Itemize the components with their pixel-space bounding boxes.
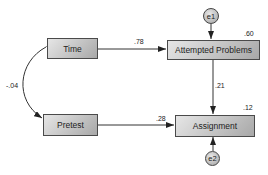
diagram-connectors <box>0 0 268 175</box>
error-e1[interactable]: e1 <box>203 8 219 24</box>
r2-attempted: .60 <box>244 30 254 37</box>
coef-time-pretest-correlation: -.04 <box>6 82 18 89</box>
error-e2[interactable]: e2 <box>205 151 220 166</box>
error-e2-label: e2 <box>208 154 216 163</box>
node-time-label: Time <box>63 44 82 54</box>
coef-time-attempted: .78 <box>134 38 144 45</box>
node-time[interactable]: Time <box>47 38 98 59</box>
node-assignment-label: Assignment <box>193 121 237 131</box>
node-attempted-label: Attempted Problems <box>175 45 252 55</box>
node-attempted-problems[interactable]: Attempted Problems <box>167 40 260 60</box>
coef-attempted-assignment: .21 <box>215 82 225 89</box>
r2-assignment: .12 <box>243 104 253 111</box>
node-pretest-label: Pretest <box>57 120 84 130</box>
node-assignment[interactable]: Assignment <box>175 115 255 137</box>
error-e1-label: e1 <box>207 12 215 21</box>
correlation-time-pretest <box>23 47 46 118</box>
node-pretest[interactable]: Pretest <box>43 114 98 136</box>
coef-pretest-assignment: .28 <box>156 115 166 122</box>
